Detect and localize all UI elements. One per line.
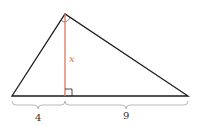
left-segment-label: 4 [35,112,41,123]
left-segment-brace [12,101,65,109]
right-triangle [12,14,188,96]
right-segment-brace [65,101,188,109]
altitude-label-x: x [69,53,75,64]
right-segment-label: 9 [123,110,129,121]
foot-right-angle-marker [65,89,72,96]
triangle-diagram: x 4 9 [0,0,201,125]
